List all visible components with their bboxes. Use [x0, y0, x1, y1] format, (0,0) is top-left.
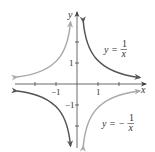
axes: [15, 12, 146, 148]
y-tick-label-pos1: 1: [69, 58, 74, 68]
x-tick-label-neg1: −1: [51, 87, 61, 97]
eq2-lhs: y = −: [101, 118, 125, 129]
x-axis-label: x: [140, 84, 146, 95]
eq1-denominator: x: [121, 48, 127, 59]
y-axis-label: y: [67, 9, 73, 20]
curve-neg-1-over-x-q2: [17, 22, 71, 77]
eq2-denominator: x: [128, 122, 134, 133]
y-tick-label-neg1: −1: [65, 100, 75, 110]
equation-label-neg-1-over-x: y = − 1 x: [101, 112, 134, 133]
curve-1-over-x-q3: [17, 91, 71, 146]
equation-label-1-over-x: y = 1 x: [103, 38, 127, 59]
eq1-lhs: y =: [103, 44, 118, 55]
x-tick-label-pos1: 1: [96, 87, 101, 97]
hyperbola-plot: −1 1 1 −1 x y y = 1 x y = − 1 x: [0, 0, 155, 152]
